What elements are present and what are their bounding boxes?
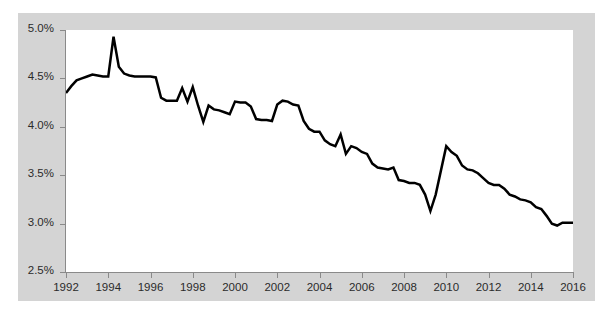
x-tick-mark <box>151 273 152 278</box>
x-tick-mark <box>404 273 405 278</box>
x-tick-label-text: 2004 <box>307 281 333 293</box>
y-tick-mark <box>60 78 65 79</box>
x-tick-label-text: 2012 <box>476 281 502 293</box>
x-tick-mark <box>66 273 67 278</box>
y-tick-mark <box>60 127 65 128</box>
line-chart-svg <box>66 30 573 272</box>
y-tick-label-text: 2.5% <box>28 264 54 276</box>
x-tick-label-text: 2006 <box>349 281 375 293</box>
x-tick-label-text: 2014 <box>518 281 544 293</box>
x-tick-mark <box>531 273 532 278</box>
x-tick-label-text: 1992 <box>53 281 79 293</box>
x-tick-mark <box>362 273 363 278</box>
y-tick-label-text: 4.0% <box>28 119 54 131</box>
x-tick-mark <box>320 273 321 278</box>
x-tick-label-text: 1996 <box>138 281 164 293</box>
y-tick-label-text: 3.5% <box>28 167 54 179</box>
y-tick-label-text: 5.0% <box>28 22 54 34</box>
plot-area <box>66 30 573 272</box>
x-tick-mark <box>277 273 278 278</box>
x-tick-mark <box>489 273 490 278</box>
x-tick-mark <box>108 273 109 278</box>
x-tick-mark <box>446 273 447 278</box>
x-tick-mark <box>193 273 194 278</box>
y-tick-mark <box>60 272 65 273</box>
y-tick-mark <box>60 30 65 31</box>
y-tick-label-text: 3.0% <box>28 216 54 228</box>
x-tick-label-text: 2008 <box>391 281 417 293</box>
x-tick-mark <box>235 273 236 278</box>
x-tick-mark <box>573 273 574 278</box>
x-tick-label-text: 1994 <box>95 281 121 293</box>
x-tick-label-text: 2016 <box>560 281 586 293</box>
x-tick-label-text: 1998 <box>180 281 206 293</box>
y-axis-line <box>65 30 66 273</box>
x-tick-label-text: 2000 <box>222 281 248 293</box>
chart-frame: 5.0%4.5%4.0%3.5%3.0%2.5% 199219941996199… <box>18 13 595 301</box>
y-tick-label-text: 4.5% <box>28 70 54 82</box>
data-series-line <box>66 37 573 226</box>
y-tick-mark <box>60 224 65 225</box>
x-tick-label-text: 2002 <box>264 281 290 293</box>
y-tick-mark <box>60 175 65 176</box>
x-tick-label-text: 2010 <box>433 281 459 293</box>
